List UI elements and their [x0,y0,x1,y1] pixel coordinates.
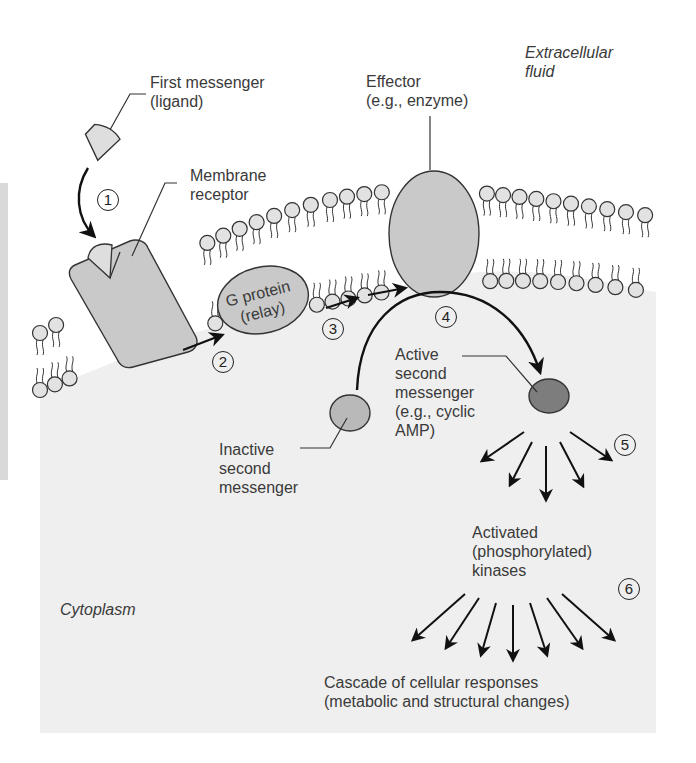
cytoplasm-label: Cytoplasm [60,600,136,619]
activated-kinases-label: Activated (phosphorylated) kinases [472,523,592,580]
step-5-badge: 5 [614,434,636,456]
step1-arrow [79,168,94,236]
ligand-icon [85,122,122,161]
first-messenger-label: First messenger (ligand) [150,73,265,111]
membrane-receptor-label: Membrane receptor [190,166,266,204]
step-4-badge: 4 [435,306,457,328]
active-second-messenger-icon [529,379,569,413]
inactive-second-messenger-label: Inactive second messenger [219,440,298,497]
effector-label: Effector (e.g., enzyme) [366,72,468,110]
cascade-label: Cascade of cellular responses (metabolic… [324,673,569,711]
step-2-badge: 2 [212,351,234,373]
active-second-messenger-label: Active second messenger (e.g., cyclic AM… [395,345,475,440]
extracellular-fluid-label: Extracellular fluid [525,43,613,81]
signal-transduction-diagram [0,0,696,763]
step-6-badge: 6 [618,578,640,600]
inactive-second-messenger-icon [330,395,370,431]
step-1-badge: 1 [97,189,119,211]
effector-icon [389,171,479,297]
membrane-receptor-icon [69,240,197,368]
step-3-badge: 3 [322,318,344,340]
